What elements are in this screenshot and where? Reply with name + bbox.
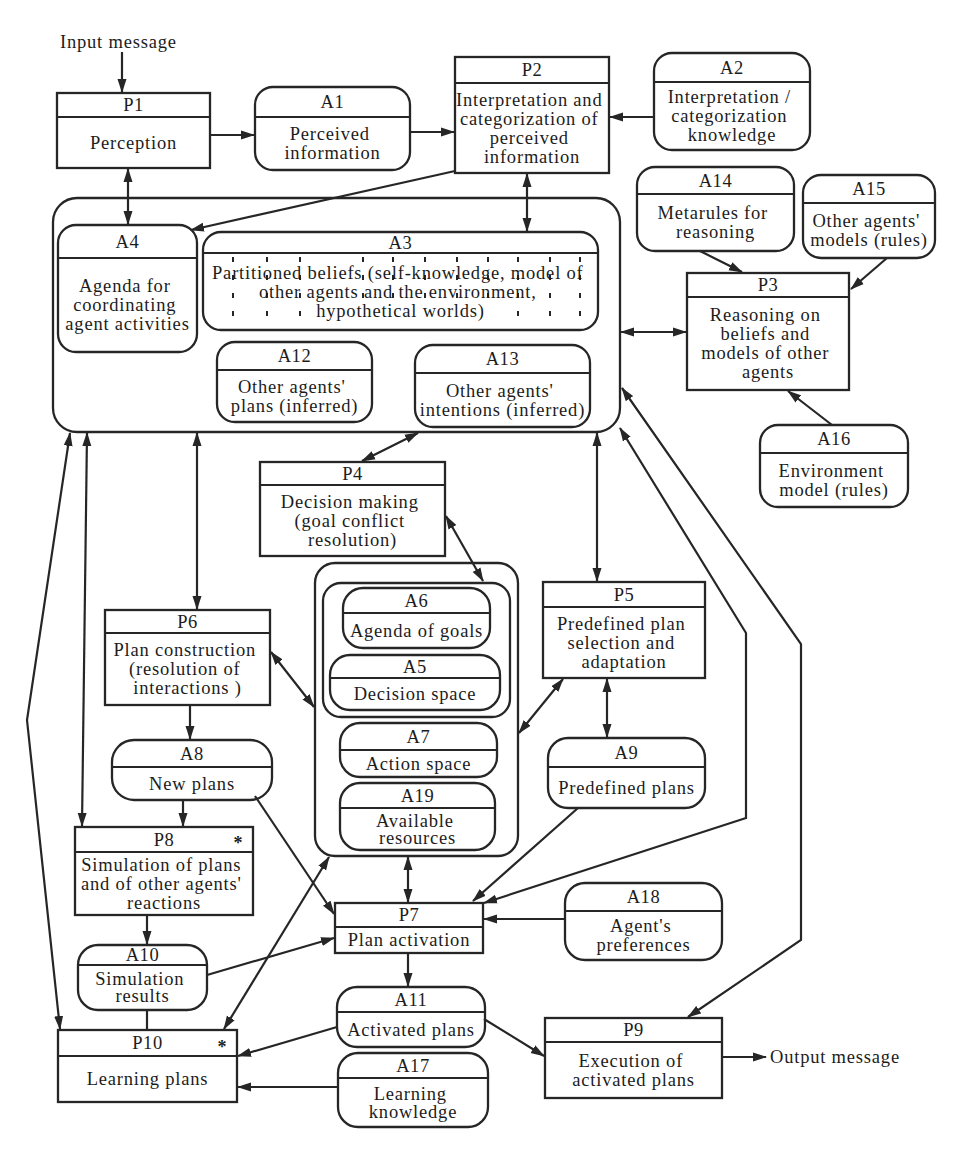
label-line: interactions ) (133, 678, 241, 699)
label-line: Other agents' (238, 377, 346, 397)
label-line: results (116, 986, 170, 1006)
asterisk-marker: * (234, 833, 243, 853)
label-line: reasoning (676, 222, 755, 242)
label-line: model (rules) (779, 480, 889, 501)
process-p9-label: Execution of activated plans (572, 1051, 694, 1090)
knowledge-a18-label: Agent's preferences (596, 916, 690, 955)
knowledge-a2-id: A2 (720, 58, 744, 78)
arrow-beliefs-p10-bidirectional (27, 433, 70, 1029)
process-p3: P3 Reasoning on beliefs and models of ot… (687, 273, 849, 390)
knowledge-a12-label: Other agents' plans (inferred) (231, 377, 358, 417)
knowledge-a2: A2 Interpretation / categorization knowl… (654, 53, 810, 150)
process-p6: P6 Plan construction (resolution of inte… (105, 610, 270, 705)
knowledge-a10-id: A10 (126, 945, 160, 965)
label-line: information (484, 147, 580, 167)
label-line: Decision making (281, 492, 419, 512)
arrow-beliefs-p4-bidirectional (362, 433, 418, 461)
label-line: Learning (374, 1084, 447, 1104)
process-p1-id: P1 (123, 95, 144, 115)
knowledge-a14-id: A14 (699, 171, 733, 191)
arrow-p6-decision-group-bidirectional (271, 652, 314, 707)
arrow-a15-to-p3 (851, 258, 887, 289)
process-p6-label: Plan construction (resolution of interac… (113, 640, 261, 699)
diagram-canvas: Input message Output message P1 Percepti… (0, 0, 966, 1153)
knowledge-a5-label: Decision space (354, 684, 477, 704)
label-line: coordinating (73, 295, 176, 315)
label-line: Learning plans (87, 1069, 209, 1089)
label-line: New plans (149, 774, 235, 794)
process-p7-label: Plan activation (348, 930, 470, 950)
output-message-label: Output message (770, 1047, 900, 1067)
label-line: Action space (366, 754, 472, 774)
label-line: Predefined plans (558, 778, 695, 798)
label-line: Partitioned beliefs (self-knowledge, mod… (212, 263, 584, 284)
knowledge-a13-id: A13 (486, 349, 520, 369)
knowledge-a6: A6 Agenda of goals (343, 588, 490, 648)
process-p5: P5 Predefined plan selection and adaptat… (543, 582, 705, 678)
knowledge-a8-id: A8 (180, 744, 204, 764)
knowledge-a8-label: New plans (149, 774, 235, 794)
process-p8-id: P8 (154, 830, 175, 850)
knowledge-a11-label: Activated plans (347, 1020, 475, 1040)
knowledge-a4-id: A4 (116, 232, 140, 252)
asterisk-marker: * (218, 1037, 227, 1057)
knowledge-a16-label: Environment model (rules) (779, 461, 890, 501)
knowledge-a15: A15 Other agents' models (rules) (803, 175, 935, 258)
knowledge-a4-label: Agenda for coordinating agent activities (65, 276, 189, 334)
label-line: Interpretation and (456, 90, 602, 110)
arrow-p5-decision-group-bidirectional (519, 679, 563, 733)
label-line: resolution) (308, 530, 397, 551)
label-line: Reasoning on (710, 305, 821, 325)
knowledge-a13: A13 Other agents' intentions (inferred) (415, 345, 590, 427)
process-p9-id: P9 (623, 1020, 644, 1040)
label-line: beliefs and (721, 324, 810, 344)
label-line: Interpretation / (668, 87, 791, 107)
process-p4: P4 Decision making (goal conflict resolu… (260, 462, 445, 556)
knowledge-a19-label: Available resources (376, 811, 459, 848)
knowledge-a18: A18 Agent's preferences (565, 883, 722, 960)
arrow-a11-to-p10 (238, 1027, 337, 1056)
agent-architecture-diagram: Input message Output message P1 Percepti… (0, 0, 966, 1153)
knowledge-a5: A5 Decision space (330, 655, 500, 710)
knowledge-a3: A3 Partitioned beliefs (self-knowledge, … (203, 232, 598, 330)
knowledge-a10: A10 Simulation results (78, 945, 207, 1010)
label-line: Agent's (610, 916, 671, 936)
knowledge-a12: A12 Other agents' plans (inferred) (217, 342, 372, 422)
label-line: activated plans (572, 1070, 694, 1090)
process-p10-label: Learning plans (87, 1069, 209, 1089)
process-p6-id: P6 (177, 612, 198, 632)
label-line: Plan construction (113, 640, 256, 660)
label-line: intentions (inferred) (420, 400, 585, 421)
process-p2: P2 Interpretation and categorization of … (455, 57, 609, 173)
knowledge-a4: A4 Agenda for coordinating agent activit… (58, 225, 197, 352)
label-line: Activated plans (347, 1020, 475, 1040)
knowledge-a3-id: A3 (389, 233, 413, 253)
knowledge-a9: A9 Predefined plans (548, 738, 705, 808)
label-line: other agents and the environment, (259, 282, 537, 302)
knowledge-a6-id: A6 (405, 591, 429, 611)
process-p1: P1 Perception (57, 93, 210, 168)
process-p8: P8 * Simulation of plans and of other ag… (75, 827, 253, 915)
label-line: perceived (490, 128, 569, 148)
process-p10: P10 * Learning plans (58, 1030, 237, 1102)
knowledge-a14: A14 Metarules for reasoning (637, 167, 794, 251)
label-line: Perceived (290, 124, 370, 144)
label-line: models of other (701, 343, 829, 363)
knowledge-a7: A7 Action space (340, 723, 497, 777)
label-line: Plan activation (348, 930, 470, 950)
process-p9: P9 Execution of activated plans (545, 1018, 722, 1098)
knowledge-a6-label: Agenda of goals (350, 621, 483, 641)
label-line: Agenda for (79, 276, 171, 296)
process-p3-id: P3 (758, 275, 779, 295)
arrow-a14-to-p3 (700, 251, 742, 272)
knowledge-a16: A16 Environment model (rules) (760, 425, 908, 507)
label-line: Metarules for (657, 203, 768, 223)
knowledge-a15-label: Other agents' models (rules) (810, 211, 928, 251)
label-line: Predefined plan (557, 614, 686, 634)
knowledge-a12-id: A12 (278, 346, 312, 366)
label-line: categorization (671, 106, 787, 126)
label-line: Other agents' (446, 381, 554, 401)
knowledge-a17: A17 Learning knowledge (338, 1053, 488, 1127)
knowledge-a1-label: Perceived information (284, 124, 380, 163)
knowledge-a9-label: Predefined plans (558, 778, 695, 798)
